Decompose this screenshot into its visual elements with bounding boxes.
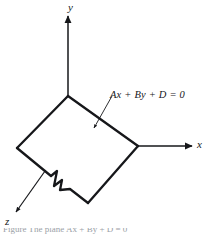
figure-caption-text: Figure The plane Ax + By + D = 0 bbox=[3, 228, 127, 234]
plane-fill bbox=[17, 96, 138, 203]
y-axis-label: y bbox=[68, 2, 73, 13]
x-axis-label: x bbox=[197, 139, 202, 150]
z-axis-label: z bbox=[5, 216, 9, 227]
figure-canvas: y x z Ax + By + D = 0 Figure The plane A… bbox=[0, 0, 210, 234]
figure-caption-clipped: Figure The plane Ax + By + D = 0 bbox=[0, 228, 210, 234]
plane-equation-label: Ax + By + D = 0 bbox=[110, 89, 185, 100]
diagram-svg bbox=[0, 0, 210, 234]
